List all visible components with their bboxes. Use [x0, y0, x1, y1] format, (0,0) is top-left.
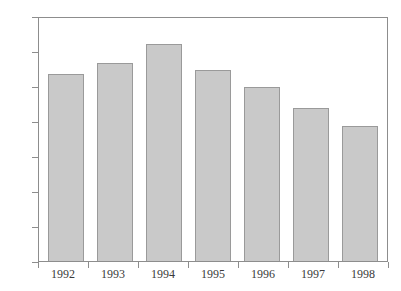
plot-area	[38, 17, 388, 262]
bars-container	[39, 18, 387, 261]
bar-slot	[286, 18, 335, 261]
bar-1996[interactable]	[244, 87, 280, 261]
bar-1992[interactable]	[48, 74, 84, 261]
bar-slot	[42, 18, 91, 261]
bar-1998[interactable]	[342, 126, 378, 261]
bar-1997[interactable]	[293, 108, 329, 261]
bar-1994[interactable]	[146, 44, 182, 261]
bar-slot	[237, 18, 286, 261]
bar-1993[interactable]	[97, 63, 133, 261]
bar-1995[interactable]	[195, 70, 231, 261]
x-axis-label-1998: 1998	[333, 267, 393, 281]
bar-slot	[335, 18, 384, 261]
bar-slot	[91, 18, 140, 261]
bar-slot	[140, 18, 189, 261]
bar-slot	[189, 18, 238, 261]
bar-chart: 0 20 40 60 80 100 120 140	[0, 0, 401, 291]
